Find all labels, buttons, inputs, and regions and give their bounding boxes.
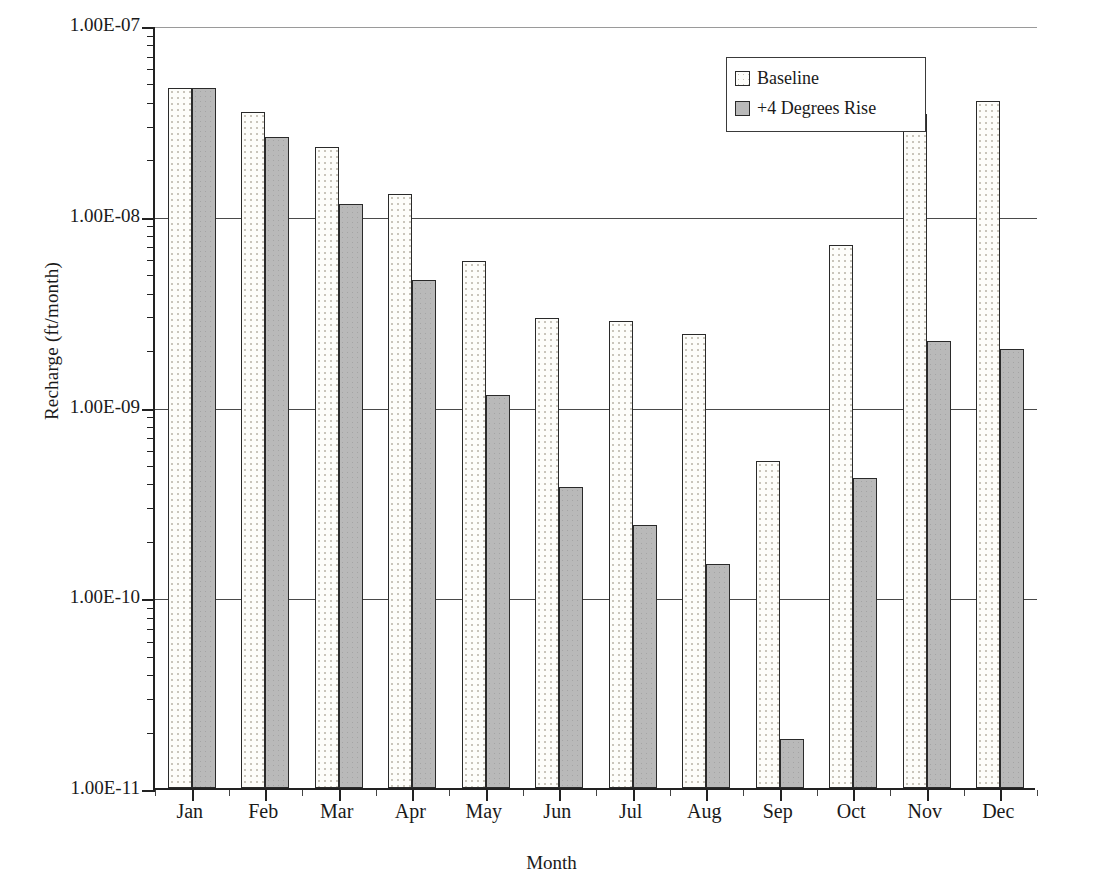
- x-tick-label-jul: Jul: [591, 800, 671, 823]
- y-tick-major: [142, 27, 155, 29]
- bar-feb-baseline: [241, 112, 265, 788]
- y-tick-minor: [147, 57, 155, 58]
- x-tick-label-nov: Nov: [885, 800, 965, 823]
- y-tick-minor: [147, 451, 155, 452]
- y-tick-minor: [147, 226, 155, 227]
- gridline: [155, 27, 1037, 28]
- y-tick-major: [142, 790, 155, 792]
- bar-may-rise: [486, 395, 510, 788]
- y-tick-minor: [147, 275, 155, 276]
- bar-may-baseline: [462, 261, 486, 788]
- x-tick-label-feb: Feb: [223, 800, 303, 823]
- bar-jul-baseline: [609, 321, 633, 788]
- y-tick-minor: [147, 466, 155, 467]
- y-tick-label: 1.00E-11: [0, 777, 140, 799]
- y-tick-major: [142, 599, 155, 601]
- x-tick-minor: [229, 790, 230, 796]
- x-tick-minor: [743, 790, 744, 796]
- x-tick-label-sep: Sep: [738, 800, 818, 823]
- x-tick-minor: [449, 790, 450, 796]
- x-tick-minor: [302, 790, 303, 796]
- y-tick-minor: [147, 484, 155, 485]
- legend-label-rise: +4 Degrees Rise: [757, 98, 876, 119]
- x-tick-label-dec: Dec: [958, 800, 1038, 823]
- y-tick-minor: [147, 127, 155, 128]
- x-tick-label-mar: Mar: [297, 800, 377, 823]
- y-tick-minor: [147, 103, 155, 104]
- y-tick-minor: [147, 236, 155, 237]
- y-axis-tick-labels: 1.00E-071.00E-081.00E-091.00E-101.00E-11: [0, 27, 140, 790]
- x-tick-label-may: May: [444, 800, 524, 823]
- legend-item-rise: +4 Degrees Rise: [735, 93, 917, 123]
- x-tick-minor: [376, 790, 377, 796]
- y-tick-minor: [147, 247, 155, 248]
- y-tick-minor: [147, 260, 155, 261]
- y-tick-label: 1.00E-09: [0, 396, 140, 418]
- y-tick-minor: [147, 675, 155, 676]
- y-tick-minor: [147, 542, 155, 543]
- x-tick-minor: [1037, 790, 1038, 796]
- y-tick-minor: [147, 608, 155, 609]
- bar-feb-rise: [265, 137, 289, 788]
- y-tick-label: 1.00E-08: [0, 205, 140, 227]
- y-tick-label: 1.00E-10: [0, 586, 140, 608]
- bar-apr-baseline: [388, 194, 412, 788]
- x-tick-label-aug: Aug: [664, 800, 744, 823]
- x-tick-minor: [596, 790, 597, 796]
- bar-nov-baseline: [903, 114, 927, 788]
- y-tick-minor: [147, 417, 155, 418]
- bar-jan-baseline: [168, 88, 192, 788]
- bar-sep-baseline: [756, 461, 780, 788]
- y-tick-minor: [147, 294, 155, 295]
- y-tick-minor: [147, 427, 155, 428]
- x-tick-label-apr: Apr: [370, 800, 450, 823]
- y-tick-minor: [147, 69, 155, 70]
- bar-mar-baseline: [315, 147, 339, 788]
- x-tick-label-jun: Jun: [517, 800, 597, 823]
- y-tick-minor: [147, 438, 155, 439]
- y-tick-minor: [147, 508, 155, 509]
- x-tick-minor: [670, 790, 671, 796]
- x-tick-label-oct: Oct: [811, 800, 891, 823]
- bar-apr-rise: [412, 280, 436, 788]
- y-tick-minor: [147, 45, 155, 46]
- y-tick-major: [142, 218, 155, 220]
- chart-figure: Recharge (ft/month) 1.00E-071.00E-081.00…: [0, 0, 1103, 892]
- bar-oct-rise: [853, 478, 877, 788]
- x-tick-label-jan: Jan: [150, 800, 230, 823]
- plot-area: [153, 27, 1035, 790]
- bar-aug-baseline: [682, 334, 706, 788]
- x-tick-minor: [523, 790, 524, 796]
- y-tick-minor: [147, 629, 155, 630]
- legend-swatch-baseline: [735, 71, 750, 86]
- bar-jul-rise: [633, 525, 657, 788]
- x-tick-minor: [817, 790, 818, 796]
- legend-swatch-rise: [735, 101, 750, 116]
- x-tick-minor: [155, 790, 156, 796]
- legend-item-baseline: Baseline: [735, 63, 917, 93]
- chart-legend: Baseline +4 Degrees Rise: [726, 57, 926, 132]
- y-tick-minor: [147, 36, 155, 37]
- y-tick-minor: [147, 699, 155, 700]
- y-tick-minor: [147, 351, 155, 352]
- y-tick-minor: [147, 317, 155, 318]
- y-tick-minor: [147, 642, 155, 643]
- y-tick-minor: [147, 618, 155, 619]
- bar-dec-rise: [1000, 349, 1024, 788]
- x-tick-minor: [964, 790, 965, 796]
- bar-aug-rise: [706, 564, 730, 788]
- y-tick-minor: [147, 160, 155, 161]
- x-axis-title: Month: [0, 852, 1103, 874]
- y-tick-minor: [147, 84, 155, 85]
- legend-label-baseline: Baseline: [757, 68, 819, 89]
- bar-jan-rise: [192, 88, 216, 788]
- bar-jun-baseline: [535, 318, 559, 788]
- bar-dec-baseline: [976, 101, 1000, 788]
- x-axis-tick-labels: JanFebMarAprMayJunJulAugSepOctNovDec: [153, 800, 1035, 834]
- y-tick-label: 1.00E-07: [0, 14, 140, 36]
- x-tick-minor: [890, 790, 891, 796]
- bar-mar-rise: [339, 204, 363, 788]
- bar-sep-rise: [780, 739, 804, 788]
- bar-jun-rise: [559, 487, 583, 788]
- y-tick-major: [142, 409, 155, 411]
